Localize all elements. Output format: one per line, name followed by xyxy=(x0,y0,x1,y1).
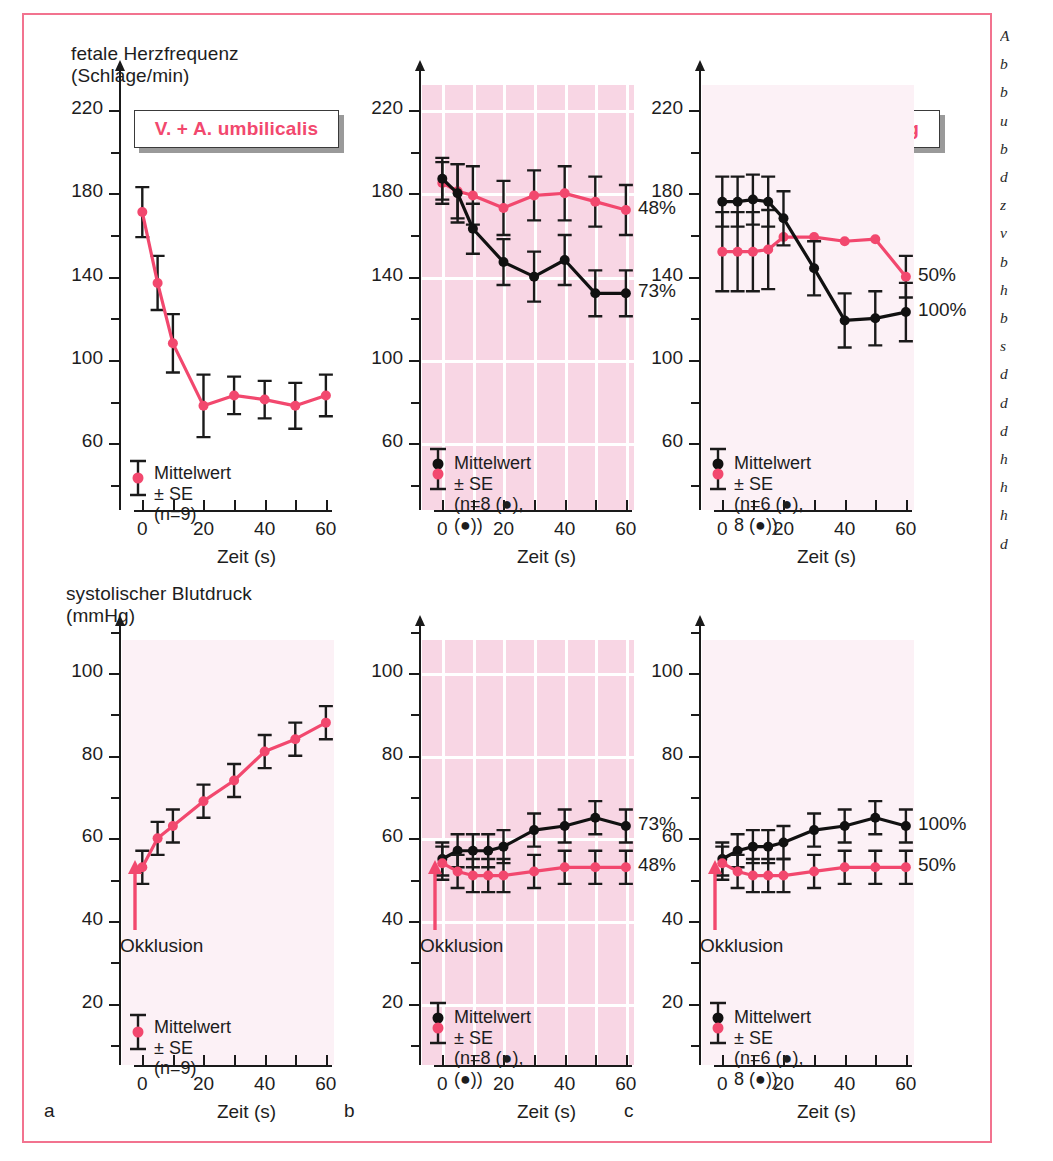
series-end-label: 50% xyxy=(918,854,956,876)
series-overlay xyxy=(24,15,994,1145)
data-point-marker xyxy=(748,842,758,852)
series-end-label: 100% xyxy=(918,813,967,835)
margin-caption-line: b xyxy=(1000,50,1053,78)
margin-caption-line: h xyxy=(1000,473,1053,501)
margin-caption-line: b xyxy=(1000,304,1053,332)
margin-caption-line: b xyxy=(1000,135,1053,163)
data-point-marker xyxy=(809,825,819,835)
data-point-marker xyxy=(840,821,850,831)
margin-caption-line: h xyxy=(1000,445,1053,473)
data-point-marker xyxy=(809,866,819,876)
panel-letter-b: b xyxy=(344,1100,355,1122)
data-point-marker xyxy=(840,862,850,872)
margin-caption-line: u xyxy=(1000,107,1053,135)
margin-caption-line: s xyxy=(1000,332,1053,360)
margin-caption-line: d xyxy=(1000,530,1053,558)
data-point-marker xyxy=(778,871,788,881)
data-point-marker xyxy=(778,838,788,848)
margin-caption-line: d xyxy=(1000,163,1053,191)
data-point-marker xyxy=(870,813,880,823)
data-point-marker xyxy=(748,871,758,881)
data-point-marker xyxy=(901,862,911,872)
panel-letter-a: a xyxy=(44,1100,55,1122)
figure-frame: fetale Herzfrequenz (Schläge/min) systol… xyxy=(22,13,992,1143)
margin-caption-line: b xyxy=(1000,248,1053,276)
data-point-marker xyxy=(763,842,773,852)
margin-caption-line: d xyxy=(1000,417,1053,445)
panel-letter-c: c xyxy=(624,1100,634,1122)
margin-caption-line: z xyxy=(1000,191,1053,219)
chart-legend: Mittelwert ± SE (n=6 (●), 8 (●)) xyxy=(734,1007,811,1089)
margin-caption-column: Abbubdzvbhbsdddhhhd xyxy=(1000,22,1053,558)
data-point-marker xyxy=(763,871,773,881)
data-point-marker xyxy=(870,862,880,872)
margin-caption-line: d xyxy=(1000,389,1053,417)
occlusion-label: Okklusion xyxy=(700,935,783,957)
margin-caption-line: d xyxy=(1000,360,1053,388)
margin-caption-line: b xyxy=(1000,78,1053,106)
occlusion-arrow-icon xyxy=(704,860,728,934)
margin-caption-line: v xyxy=(1000,219,1053,247)
margin-caption-line: A xyxy=(1000,22,1053,50)
figure-page: fetale Herzfrequenz (Schläge/min) systol… xyxy=(0,0,1053,1161)
data-point-marker xyxy=(901,821,911,831)
margin-caption-line: h xyxy=(1000,276,1053,304)
series-50- xyxy=(715,847,913,892)
data-point-marker xyxy=(733,866,743,876)
margin-caption-line: h xyxy=(1000,501,1053,529)
legend-glyph xyxy=(706,999,732,1049)
